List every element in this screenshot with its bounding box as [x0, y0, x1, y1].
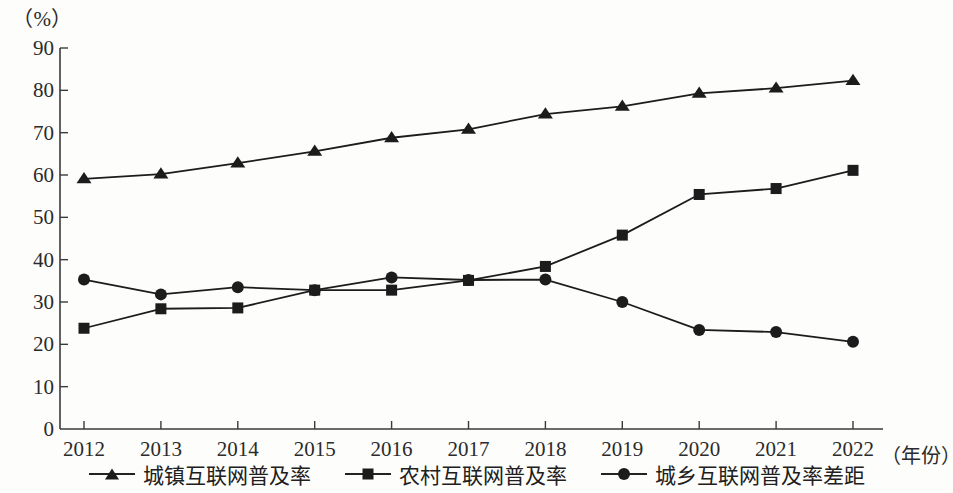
y-tick-label: 60 [8, 163, 54, 188]
legend-label-rural: 农村互联网普及率 [399, 459, 567, 489]
data-point-marker [693, 324, 705, 336]
circle-marker-icon [601, 466, 647, 482]
y-tick-label: 90 [8, 36, 54, 61]
data-point-marker [770, 326, 782, 338]
data-point-marker [78, 274, 90, 286]
square-marker-icon [345, 466, 391, 482]
legend-item-gap: 城乡互联网普及率差距 [601, 459, 865, 489]
chart-canvas [0, 0, 953, 493]
chart-legend: 城镇互联网普及率 农村互联网普及率 城乡互联网普及率差距 [0, 459, 953, 489]
plot-area [0, 0, 953, 493]
legend-label-urban: 城镇互联网普及率 [143, 459, 311, 489]
data-point-marker [848, 165, 859, 176]
data-point-marker [155, 303, 166, 314]
data-point-marker [155, 288, 167, 300]
data-point-marker [386, 285, 397, 296]
y-tick-label: 70 [8, 120, 54, 145]
y-tick-label: 40 [8, 247, 54, 272]
data-point-marker [540, 261, 551, 272]
data-point-marker [846, 74, 861, 85]
data-point-marker [79, 323, 90, 334]
legend-label-gap: 城乡互联网普及率差距 [655, 459, 865, 489]
data-point-marker [771, 183, 782, 194]
data-point-marker [232, 302, 243, 313]
legend-item-rural: 农村互联网普及率 [345, 459, 567, 489]
data-point-marker [617, 230, 628, 241]
data-point-marker [539, 274, 551, 286]
data-point-marker [694, 189, 705, 200]
data-point-marker [386, 271, 398, 283]
data-point-marker [616, 296, 628, 308]
triangle-marker-icon [89, 466, 135, 482]
y-tick-label: 50 [8, 205, 54, 230]
data-point-marker [463, 274, 475, 286]
y-tick-label: 30 [8, 290, 54, 315]
legend-item-urban: 城镇互联网普及率 [89, 459, 311, 489]
y-tick-label: 80 [8, 78, 54, 103]
data-point-marker [309, 284, 321, 296]
line-chart: （%） 0102030405060708090 2012201320142015… [0, 0, 953, 493]
y-tick-label: 10 [8, 374, 54, 399]
data-point-marker [847, 336, 859, 348]
data-point-marker [232, 281, 244, 293]
y-tick-label: 20 [8, 332, 54, 357]
